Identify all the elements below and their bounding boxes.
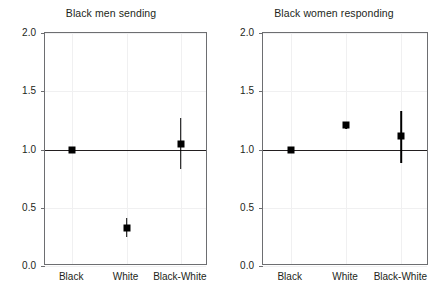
- y-tick-mark: [41, 91, 45, 92]
- gridline-horizontal: [263, 91, 427, 92]
- gridline-horizontal: [263, 266, 427, 267]
- y-axis-tick-label: 0.0: [0, 260, 36, 271]
- plot-area: [262, 32, 428, 265]
- data-point-marker: [398, 132, 405, 139]
- y-axis-tick-label: 2.0: [223, 27, 254, 38]
- y-axis-tick-label: 0.5: [223, 201, 254, 212]
- x-axis-tick-label: Black: [59, 271, 83, 282]
- x-axis-tick-label: Black-White: [374, 271, 427, 282]
- y-axis-tick-label: 0.5: [0, 201, 36, 212]
- gridline-horizontal: [45, 33, 206, 34]
- x-axis-tick-label: Black: [277, 271, 301, 282]
- x-axis-tick-label: Black-White: [153, 271, 206, 282]
- plot-area: [44, 32, 207, 265]
- y-axis-tick-label: 1.5: [223, 85, 254, 96]
- y-tick-mark: [41, 208, 45, 209]
- y-tick-mark: [259, 33, 263, 34]
- y-tick-mark: [41, 266, 45, 267]
- gridline-horizontal: [263, 33, 427, 34]
- x-axis-tick-label: White: [332, 271, 358, 282]
- y-tick-mark: [259, 266, 263, 267]
- y-tick-mark: [259, 208, 263, 209]
- y-axis-tick-label: 1.5: [0, 85, 36, 96]
- y-tick-mark: [259, 91, 263, 92]
- y-axis-tick-label: 1.0: [0, 143, 36, 154]
- x-axis-tick-label: White: [113, 271, 139, 282]
- gridline-horizontal: [45, 266, 206, 267]
- panel-title: Black women responding: [223, 7, 445, 19]
- data-point-marker: [343, 122, 350, 129]
- gridline-horizontal: [45, 208, 206, 209]
- y-axis-tick-label: 1.0: [223, 143, 254, 154]
- panel-title: Black men sending: [0, 7, 222, 19]
- gridline-vertical: [346, 33, 347, 264]
- y-tick-mark: [41, 33, 45, 34]
- data-point-marker: [177, 140, 184, 147]
- data-point-marker: [69, 146, 76, 153]
- panel-black-women-responding: Black women responding 0.00.51.01.52.0Bl…: [223, 0, 445, 307]
- figure: Black men sending 0.00.51.01.52.0BlackWh…: [0, 0, 445, 307]
- panel-black-men-sending: Black men sending 0.00.51.01.52.0BlackWh…: [0, 0, 222, 307]
- data-point-marker: [123, 224, 130, 231]
- y-axis-tick-label: 0.0: [223, 260, 254, 271]
- gridline-horizontal: [263, 208, 427, 209]
- data-point-marker: [287, 146, 294, 153]
- y-axis-tick-label: 2.0: [0, 27, 36, 38]
- gridline-horizontal: [45, 91, 206, 92]
